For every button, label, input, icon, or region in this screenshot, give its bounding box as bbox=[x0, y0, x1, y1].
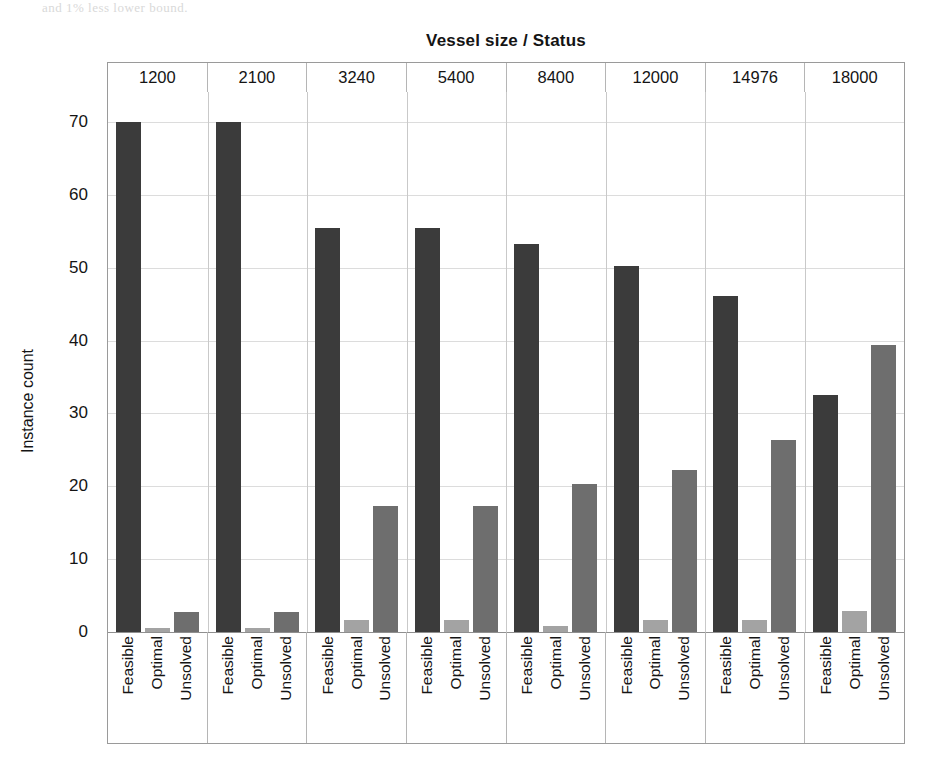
x-axis-tick-label: Unsolved bbox=[576, 636, 594, 701]
bar-unsolved[interactable] bbox=[771, 440, 796, 632]
bar-feasible[interactable] bbox=[116, 122, 141, 632]
x-axis-tick-label: Unsolved bbox=[875, 636, 893, 701]
bar-feasible[interactable] bbox=[315, 228, 340, 632]
bar-feasible[interactable] bbox=[614, 266, 639, 632]
category-group: FeasibleOptimalUnsolved bbox=[507, 632, 607, 743]
bar-group bbox=[407, 92, 507, 632]
bar-slot bbox=[512, 92, 541, 632]
bar-unsolved[interactable] bbox=[672, 470, 697, 632]
x-axis-tick-label: Feasible bbox=[618, 636, 636, 695]
category-slot: Unsolved bbox=[770, 632, 799, 743]
bar-slot bbox=[869, 92, 898, 632]
bar-group bbox=[108, 92, 208, 632]
category-slot: Unsolved bbox=[172, 632, 201, 743]
x-axis-tick-label: Unsolved bbox=[177, 636, 195, 701]
bar-slot bbox=[143, 92, 172, 632]
x-axis-tick-label: Unsolved bbox=[675, 636, 693, 701]
category-group: FeasibleOptimalUnsolved bbox=[307, 632, 407, 743]
bar-slot bbox=[641, 92, 670, 632]
bar-feasible[interactable] bbox=[813, 395, 838, 632]
bar-optimal[interactable] bbox=[643, 620, 668, 632]
scan-artifact-text: and 1% less lower bound. bbox=[42, 0, 188, 16]
y-axis-tick-label: 50 bbox=[69, 258, 88, 278]
x-axis-tick-label: Unsolved bbox=[476, 636, 494, 701]
bar-optimal[interactable] bbox=[344, 620, 369, 632]
bar-slot bbox=[114, 92, 143, 632]
category-slot: Feasible bbox=[712, 632, 741, 743]
y-axis-tick-label: 60 bbox=[69, 185, 88, 205]
bar-feasible[interactable] bbox=[216, 122, 241, 632]
category-group: FeasibleOptimalUnsolved bbox=[706, 632, 806, 743]
bar-unsolved[interactable] bbox=[871, 345, 896, 632]
category-slot: Feasible bbox=[612, 632, 641, 743]
x-axis-tick-label: Unsolved bbox=[277, 636, 295, 701]
bar-unsolved[interactable] bbox=[174, 612, 199, 632]
category-slot: Feasible bbox=[313, 632, 342, 743]
bar-slot bbox=[570, 92, 599, 632]
bar-unsolved[interactable] bbox=[572, 484, 597, 632]
bar-slot bbox=[342, 92, 371, 632]
x-axis-tick-label: Feasible bbox=[219, 636, 237, 695]
group-header-cell: 8400 bbox=[507, 63, 607, 92]
group-header-cell: 3240 bbox=[307, 63, 407, 92]
bar-slot bbox=[442, 92, 471, 632]
bar-group bbox=[506, 92, 606, 632]
bar-feasible[interactable] bbox=[415, 228, 440, 632]
plot-area bbox=[107, 92, 905, 632]
bar-optimal[interactable] bbox=[742, 620, 767, 632]
x-axis-tick-label: Feasible bbox=[119, 636, 137, 695]
x-axis-tick-label: Optimal bbox=[846, 636, 864, 689]
x-axis-tick-label: Feasible bbox=[518, 636, 536, 695]
category-slot: Feasible bbox=[214, 632, 243, 743]
y-axis-tick-label: 0 bbox=[79, 622, 88, 642]
y-axis-title: Instance count bbox=[19, 311, 37, 491]
category-slot: Feasible bbox=[513, 632, 542, 743]
x-axis-tick-label: Optimal bbox=[248, 636, 266, 689]
category-slot: Unsolved bbox=[570, 632, 599, 743]
bar-group bbox=[805, 92, 905, 632]
category-group: FeasibleOptimalUnsolved bbox=[108, 632, 208, 743]
group-header-cell: 5400 bbox=[407, 63, 507, 92]
bar-group bbox=[307, 92, 407, 632]
category-group: FeasibleOptimalUnsolved bbox=[407, 632, 507, 743]
bar-slot bbox=[272, 92, 301, 632]
category-slot: Optimal bbox=[641, 632, 670, 743]
x-axis-tick-label: Unsolved bbox=[775, 636, 793, 701]
category-slot: Optimal bbox=[741, 632, 770, 743]
bar-optimal[interactable] bbox=[444, 620, 469, 632]
bar-slot bbox=[413, 92, 442, 632]
bar-unsolved[interactable] bbox=[274, 612, 299, 632]
category-group: FeasibleOptimalUnsolved bbox=[805, 632, 904, 743]
bar-slot bbox=[840, 92, 869, 632]
bar-unsolved[interactable] bbox=[373, 506, 398, 632]
group-header-cell: 18000 bbox=[805, 63, 904, 92]
category-label-band: FeasibleOptimalUnsolvedFeasibleOptimalUn… bbox=[107, 632, 905, 744]
bar-feasible[interactable] bbox=[514, 244, 539, 632]
y-axis-tick-label: 30 bbox=[69, 403, 88, 423]
category-slot: Optimal bbox=[840, 632, 869, 743]
x-axis-tick-label: Feasible bbox=[418, 636, 436, 695]
category-slot: Optimal bbox=[243, 632, 272, 743]
x-axis-tick-label: Feasible bbox=[319, 636, 337, 695]
category-slot: Feasible bbox=[114, 632, 143, 743]
category-slot: Unsolved bbox=[670, 632, 699, 743]
group-header-band: 12002100324054008400120001497618000 bbox=[107, 62, 905, 92]
bar-slot bbox=[769, 92, 798, 632]
bar-slot bbox=[214, 92, 243, 632]
bar-slot bbox=[670, 92, 699, 632]
y-axis-tick-label: 70 bbox=[69, 112, 88, 132]
category-slot: Feasible bbox=[811, 632, 840, 743]
category-slot: Optimal bbox=[342, 632, 371, 743]
x-axis-tick-label: Optimal bbox=[148, 636, 166, 689]
bars-layer bbox=[108, 92, 904, 632]
bar-feasible[interactable] bbox=[713, 296, 738, 632]
bar-slot bbox=[243, 92, 272, 632]
x-axis-tick-label: Optimal bbox=[547, 636, 565, 689]
x-axis-tick-label: Unsolved bbox=[376, 636, 394, 701]
bar-group bbox=[606, 92, 706, 632]
bar-slot bbox=[740, 92, 769, 632]
bar-unsolved[interactable] bbox=[473, 506, 498, 632]
category-slot: Feasible bbox=[413, 632, 442, 743]
bar-optimal[interactable] bbox=[842, 611, 867, 632]
bar-slot bbox=[811, 92, 840, 632]
